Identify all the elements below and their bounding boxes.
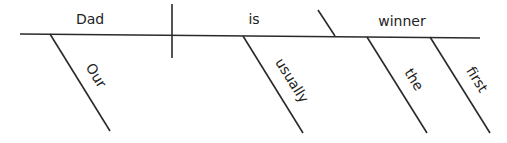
modifier-word: usually — [272, 55, 312, 106]
modifier-usually: usually — [243, 36, 312, 133]
modifier-word: the — [401, 65, 427, 93]
predicate-nominative-word: winner — [378, 13, 426, 29]
subject-word: Dad — [76, 11, 104, 27]
modifier-the: the — [367, 37, 427, 133]
modifier-word: Our — [83, 60, 110, 90]
modifier-word: first — [463, 64, 491, 96]
modifier-first: first — [430, 37, 492, 133]
baseline — [20, 34, 480, 38]
verb-word: is — [248, 11, 259, 27]
sentence-diagram: Dad is winner Our usually the first — [0, 0, 507, 143]
verb-complement-divider — [318, 10, 335, 36]
modifier-our: Our — [50, 34, 110, 131]
